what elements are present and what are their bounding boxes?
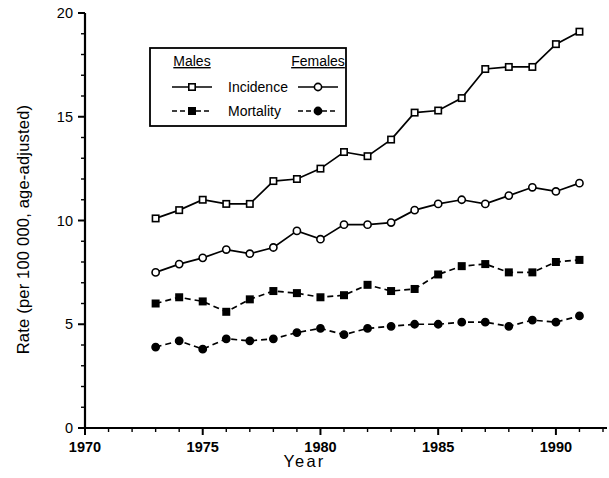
data-point	[294, 176, 300, 182]
data-point	[176, 207, 182, 213]
data-point	[364, 153, 370, 159]
data-point	[176, 337, 183, 344]
legend-sample-marker	[189, 108, 195, 114]
data-point	[435, 200, 442, 207]
legend-sample-marker	[314, 83, 321, 90]
legend-sample-marker	[189, 84, 195, 90]
legend-row-label: Mortality	[228, 103, 281, 119]
data-point	[294, 290, 300, 296]
data-point	[553, 259, 559, 265]
data-point	[270, 288, 276, 294]
y-tick-label: 20	[57, 5, 73, 21]
data-point	[529, 269, 535, 275]
data-point	[176, 260, 183, 267]
data-point	[200, 197, 206, 203]
legend-row-label: Incidence	[228, 79, 288, 95]
data-point	[270, 178, 276, 184]
plot-area: 0510152019701975198019851990 MalesFemale…	[0, 0, 609, 478]
data-point	[552, 319, 559, 326]
data-point	[317, 294, 323, 300]
data-point	[411, 207, 418, 214]
legend-column-header: Males	[173, 53, 210, 69]
data-point	[411, 286, 417, 292]
data-point	[435, 321, 442, 328]
data-point	[340, 331, 347, 338]
data-point	[505, 323, 512, 330]
data-point	[505, 192, 512, 199]
data-point	[482, 261, 488, 267]
data-point	[223, 201, 229, 207]
data-point	[552, 188, 559, 195]
data-point	[482, 200, 489, 207]
data-point	[529, 184, 536, 191]
data-point	[246, 337, 253, 344]
data-point	[152, 269, 159, 276]
data-point	[576, 180, 583, 187]
data-point	[341, 292, 347, 298]
data-point	[199, 346, 206, 353]
data-point	[435, 271, 441, 277]
data-point	[529, 317, 536, 324]
data-point	[270, 244, 277, 251]
data-point	[576, 28, 582, 34]
data-point	[223, 309, 229, 315]
series-females-incidence	[152, 180, 583, 276]
data-point	[506, 64, 512, 70]
data-point	[200, 298, 206, 304]
data-point	[340, 221, 347, 228]
data-point	[387, 323, 394, 330]
data-point	[293, 227, 300, 234]
x-tick-label: 1985	[422, 439, 454, 455]
data-point	[458, 319, 465, 326]
data-point	[341, 149, 347, 155]
data-point	[553, 41, 559, 47]
series-males-mortality	[152, 257, 582, 315]
data-point	[388, 288, 394, 294]
data-point	[576, 257, 582, 263]
data-point	[529, 64, 535, 70]
data-point	[364, 221, 371, 228]
y-tick-label: 0	[65, 420, 73, 436]
data-point	[459, 263, 465, 269]
data-point	[270, 335, 277, 342]
chart-legend: MalesFemalesIncidenceMortality	[150, 48, 346, 126]
data-point	[482, 319, 489, 326]
data-point	[459, 95, 465, 101]
legend-column-header: Females	[291, 53, 345, 69]
data-point	[152, 215, 158, 221]
data-point	[364, 282, 370, 288]
data-point	[482, 66, 488, 72]
data-point	[458, 196, 465, 203]
data-point	[317, 325, 324, 332]
data-point	[199, 254, 206, 261]
y-tick-label: 10	[57, 213, 73, 229]
x-tick-label: 1990	[540, 439, 572, 455]
chart-figure: Rate (per 100 000, age-adjusted) Year 05…	[0, 0, 609, 478]
y-tick-label: 15	[57, 109, 73, 125]
data-point	[506, 269, 512, 275]
data-point	[247, 201, 253, 207]
data-point	[223, 246, 230, 253]
x-tick-label: 1980	[304, 439, 336, 455]
data-point	[223, 335, 230, 342]
data-point	[435, 107, 441, 113]
x-tick-label: 1970	[69, 439, 101, 455]
data-point	[317, 236, 324, 243]
x-tick-label: 1975	[187, 439, 219, 455]
data-point	[411, 109, 417, 115]
series-females-mortality	[152, 312, 583, 352]
data-point	[388, 136, 394, 142]
data-point	[152, 300, 158, 306]
data-point	[176, 294, 182, 300]
legend-sample-marker	[314, 107, 321, 114]
data-point	[576, 312, 583, 319]
y-tick-label: 5	[65, 316, 73, 332]
data-point	[247, 296, 253, 302]
data-point	[152, 343, 159, 350]
data-point	[317, 165, 323, 171]
data-point	[293, 329, 300, 336]
data-point	[387, 219, 394, 226]
data-point	[364, 325, 371, 332]
data-point	[246, 250, 253, 257]
data-point	[411, 321, 418, 328]
